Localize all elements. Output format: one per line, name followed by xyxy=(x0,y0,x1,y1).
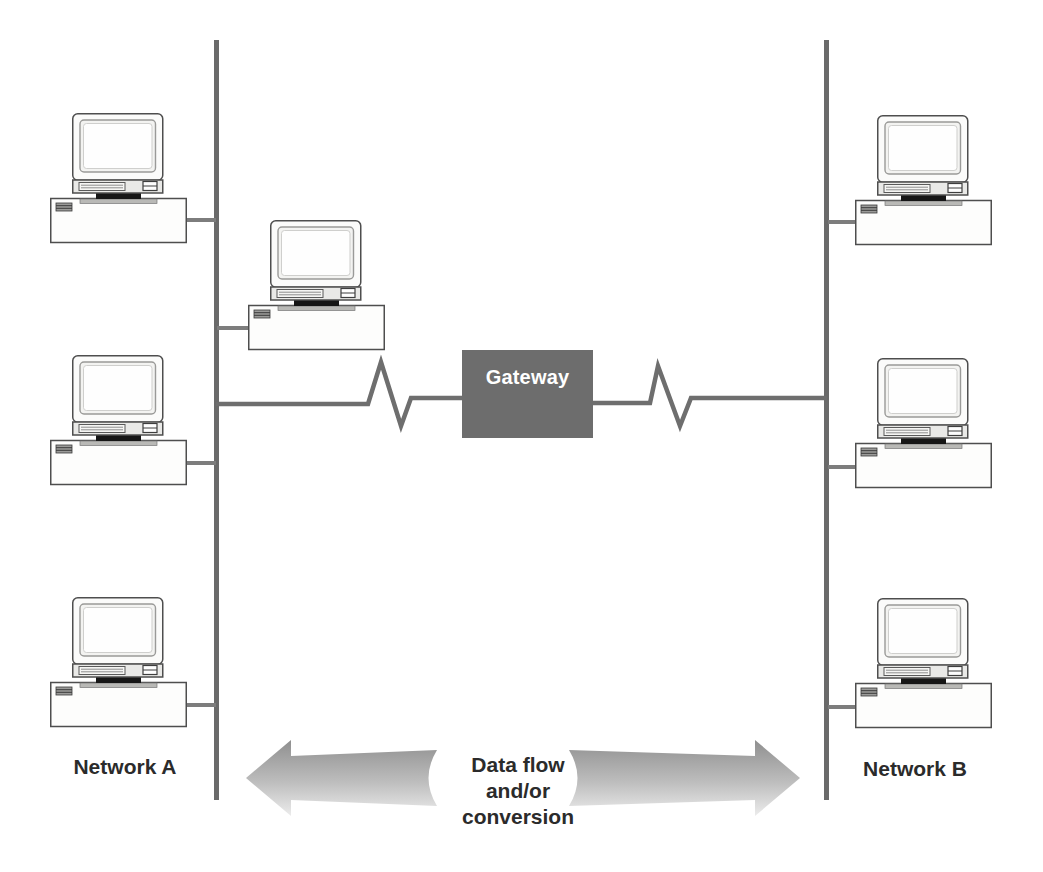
connector-a1 xyxy=(185,218,216,222)
network-a-bus-line xyxy=(214,40,219,800)
data-flow-caption-line3: conversion xyxy=(433,804,603,830)
gateway-node: Gateway xyxy=(462,350,593,438)
computer-icon-b2 xyxy=(856,359,992,488)
data-flow-caption-line2: and/or xyxy=(433,778,603,804)
computer-icon-bridge xyxy=(249,221,385,350)
network-diagram: Gateway Network A Network B Data flow an… xyxy=(0,0,1043,872)
connector-a2 xyxy=(185,461,216,465)
computer-icon-b3 xyxy=(856,599,992,728)
data-flow-arrow-left xyxy=(246,740,437,816)
connector-a3 xyxy=(185,703,216,707)
data-flow-caption-line1: Data flow xyxy=(433,752,603,778)
computer-icon-b1 xyxy=(856,116,992,245)
connector-b3 xyxy=(828,705,857,709)
connector-b2 xyxy=(828,465,857,469)
gateway-link-right-zigzag xyxy=(592,366,827,426)
data-flow-arrow-right xyxy=(569,740,800,816)
computer-icon-a3 xyxy=(51,598,187,727)
gateway-label: Gateway xyxy=(486,366,570,389)
connector-bridge xyxy=(217,326,249,330)
computer-icon-a1 xyxy=(51,114,187,243)
gateway-link-left-zigzag xyxy=(216,362,463,426)
computer-icon-a2 xyxy=(51,356,187,485)
network-b-bus-line xyxy=(824,40,829,800)
data-flow-caption: Data flow and/or conversion xyxy=(433,752,603,830)
network-b-label: Network B xyxy=(827,757,1003,781)
network-a-label: Network A xyxy=(37,755,213,779)
connector-b1 xyxy=(828,220,857,224)
